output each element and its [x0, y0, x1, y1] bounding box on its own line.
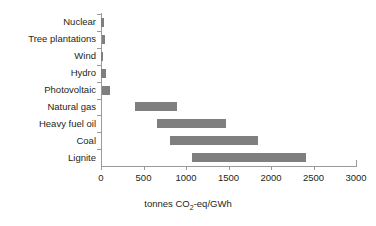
x-axis-tick-label: 2000 — [260, 172, 281, 183]
bar-hydro — [101, 69, 106, 78]
bar-natural-gas — [135, 102, 177, 111]
category-label-natural-gas: Natural gas — [0, 102, 96, 112]
chart-container: NuclearTree plantationsWindHydroPhotovol… — [0, 0, 376, 226]
x-axis-tick-label: 1500 — [218, 172, 239, 183]
category-label-wind: Wind — [0, 51, 96, 61]
x-axis-title-post: -eq/GWh — [194, 198, 232, 209]
x-axis-tick — [314, 166, 315, 170]
category-label-lignite: Lignite — [0, 153, 96, 163]
category-tick — [97, 115, 101, 116]
x-axis-tick-label: 2500 — [303, 172, 324, 183]
category-label-heavy-fuel-oil: Heavy fuel oil — [0, 119, 96, 129]
x-axis-tick-label: 3000 — [345, 172, 366, 183]
x-axis-tick-label: 0 — [98, 172, 103, 183]
x-axis-tick — [356, 160, 357, 167]
x-axis-tick — [271, 166, 272, 170]
plot-area — [101, 14, 356, 166]
x-axis-title-pre: tonnes CO — [144, 198, 189, 209]
category-tick — [97, 65, 101, 66]
x-axis-tick — [101, 166, 102, 170]
category-label-coal: Coal — [0, 136, 96, 146]
category-tick — [97, 82, 101, 83]
category-tick — [97, 99, 101, 100]
category-label-photovoltaic: Photovoltaic — [0, 85, 96, 95]
bar-lignite — [192, 153, 306, 162]
bar-photovoltaic — [102, 86, 110, 95]
x-axis-tick — [144, 166, 145, 170]
category-tick — [97, 48, 101, 49]
category-tick — [97, 31, 101, 32]
x-axis-tick — [229, 166, 230, 170]
x-axis-tick-label: 500 — [136, 172, 152, 183]
bar-heavy-fuel-oil — [157, 119, 226, 128]
bar-wind — [101, 52, 103, 61]
x-axis-title: tonnes CO2-eq/GWh — [0, 198, 376, 214]
category-tick — [97, 14, 101, 15]
bar-tree-plantations — [102, 35, 105, 44]
x-axis-tick — [186, 166, 187, 170]
bar-coal — [170, 136, 258, 145]
category-label-hydro: Hydro — [0, 68, 96, 78]
category-tick — [97, 132, 101, 133]
category-tick — [97, 149, 101, 150]
bar-nuclear — [101, 18, 103, 27]
category-label-tree-plantations: Tree plantations — [0, 34, 96, 44]
x-axis-tick-label: 1000 — [175, 172, 196, 183]
category-label-nuclear: Nuclear — [0, 17, 96, 27]
